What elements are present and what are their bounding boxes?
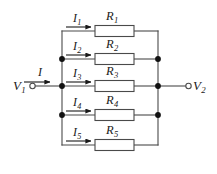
terminal-label-v2-subscript: 2	[201, 85, 205, 95]
junction-dot-left-r4	[59, 112, 65, 118]
junction-dot-left-r2	[59, 56, 65, 62]
resistor-label-r5: R5	[106, 124, 118, 137]
resistor-label-r1: R1	[106, 10, 118, 23]
resistor-label-r4-subscript: 4	[114, 99, 118, 109]
terminal-label-v1-subscript: 1	[21, 85, 25, 95]
circuit-diagram: V1 V2 I I1 I2 I3 I4 I5 R1 R2 R3 R4 R5	[0, 0, 217, 174]
resistor-body-r1	[95, 26, 134, 37]
terminal-v1-node	[30, 83, 35, 88]
resistor-label-r1-subscript: 1	[114, 15, 118, 25]
terminal-label-v2: V2	[193, 79, 205, 92]
resistor-body-r5	[95, 140, 134, 151]
current-label-i1: I1	[73, 12, 81, 24]
current-label-i5: I5	[73, 126, 81, 138]
resistor-label-r5-subscript: 5	[114, 129, 118, 139]
resistor-label-r3: R3	[106, 65, 118, 78]
resistor-label-r2-subscript: 2	[114, 43, 118, 53]
resistor-label-r3-subscript: 3	[114, 70, 118, 80]
circuit-schematic-canvas	[0, 0, 217, 174]
current-label-i3-subscript: 3	[77, 73, 81, 82]
current-label-i4: I4	[73, 96, 81, 108]
junction-dot-left-r3	[59, 83, 65, 89]
current-label-i1-subscript: 1	[77, 18, 81, 27]
terminal-label-v1: V1	[13, 79, 25, 92]
resistor-label-r2: R2	[106, 38, 118, 51]
current-label-i5-subscript: 5	[77, 132, 81, 141]
current-label-i3: I3	[73, 67, 81, 79]
terminal-v2-node	[186, 83, 191, 88]
junction-dot-right-r3	[155, 83, 161, 89]
current-label-i4-subscript: 4	[77, 102, 81, 111]
junction-dot-right-r4	[155, 112, 161, 118]
resistor-label-r4: R4	[106, 94, 118, 107]
current-label-i: I	[38, 66, 42, 78]
resistor-body-r4	[95, 110, 134, 121]
junction-dot-right-r2	[155, 56, 161, 62]
current-label-i2-subscript: 2	[77, 46, 81, 55]
resistor-body-r3	[95, 81, 134, 92]
resistor-body-r2	[95, 54, 134, 65]
current-label-i2: I2	[73, 40, 81, 52]
